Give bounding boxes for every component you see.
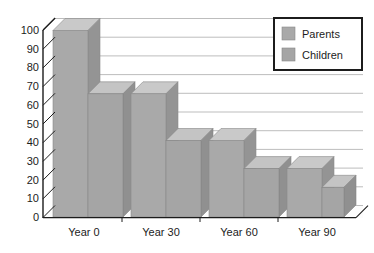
bar-front-face — [322, 187, 344, 217]
y-tick-label-40: 40 — [27, 136, 39, 148]
bar-front-face — [287, 169, 322, 217]
bar-children-year-60 — [244, 157, 291, 217]
category-label-year-30: Year 30 — [142, 226, 180, 238]
bar-children-year-30 — [166, 129, 213, 218]
bar-front-face — [88, 94, 123, 217]
x-axis-category-labels: Year 0 Year 30 Year 60 Year 90 — [68, 226, 335, 238]
legend-item-children[interactable]: Children — [282, 48, 343, 61]
y-tick-label-10: 10 — [27, 192, 39, 204]
y-tick-label-30: 30 — [27, 155, 39, 167]
y-tick-label-20: 20 — [27, 174, 39, 186]
bar-front-face — [166, 141, 201, 218]
y-axis-tick-labels: 100 90 80 70 60 50 40 30 20 10 0 — [21, 24, 39, 223]
y-tick-label-100: 100 — [21, 24, 39, 36]
category-label-year-90: Year 90 — [298, 226, 336, 238]
category-label-year-60: Year 60 — [220, 226, 258, 238]
y-tick-label-90: 90 — [27, 43, 39, 55]
chart-canvas: 100 90 80 70 60 50 40 30 20 10 0 Year 0 … — [0, 0, 374, 253]
y-tick-label-0: 0 — [33, 211, 39, 223]
legend-label-parents: Parents — [302, 28, 340, 40]
bar-front-face — [53, 31, 88, 218]
bar-children-year-0 — [88, 82, 135, 217]
bar-front-face — [209, 141, 244, 218]
y-tick-label-60: 60 — [27, 99, 39, 111]
legend: Parents Children — [274, 18, 362, 70]
category-label-year-0: Year 0 — [68, 226, 99, 238]
y-tick-label-80: 80 — [27, 61, 39, 73]
y-tick-label-50: 50 — [27, 118, 39, 130]
bar-front-face — [131, 94, 166, 217]
legend-swatch-children — [282, 48, 295, 61]
y-tick-label-70: 70 — [27, 80, 39, 92]
legend-label-children: Children — [302, 49, 343, 61]
legend-swatch-parents — [282, 27, 295, 40]
bar-chart: 100 90 80 70 60 50 40 30 20 10 0 Year 0 … — [0, 0, 374, 253]
legend-item-parents[interactable]: Parents — [282, 27, 340, 40]
legend-box — [274, 18, 362, 70]
bar-front-face — [244, 169, 279, 217]
